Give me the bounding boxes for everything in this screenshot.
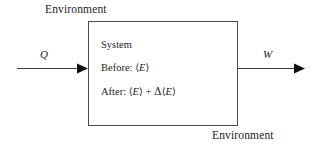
environment-label-bottom: Environment xyxy=(212,129,274,141)
angle-close-icon: ⟩ xyxy=(172,86,176,97)
work-flow-label: W xyxy=(263,49,272,60)
work-arrow-head-icon xyxy=(294,64,305,74)
after-prefix: After: xyxy=(101,86,126,97)
thermodynamic-system-diagram: Environment System Before: ⟨E⟩ After: ⟨E… xyxy=(0,0,320,146)
heat-flow-label: Q xyxy=(40,49,48,60)
environment-label-top: Environment xyxy=(45,3,107,15)
before-prefix: Before: xyxy=(101,62,133,73)
system-state-after: After: ⟨E⟩ + Δ⟨E⟩ xyxy=(101,85,231,98)
system-state-before: Before: ⟨E⟩ xyxy=(101,62,231,74)
work-output-arrow xyxy=(238,64,305,74)
system-box-text-group: System Before: ⟨E⟩ After: ⟨E⟩ + Δ⟨E⟩ xyxy=(101,39,231,98)
delta-symbol: Δ xyxy=(154,85,162,97)
system-heading: System xyxy=(101,39,231,51)
heat-input-arrow xyxy=(17,64,88,74)
angle-close-icon: ⟩ xyxy=(145,62,149,73)
heat-arrow-head-icon xyxy=(77,64,88,74)
